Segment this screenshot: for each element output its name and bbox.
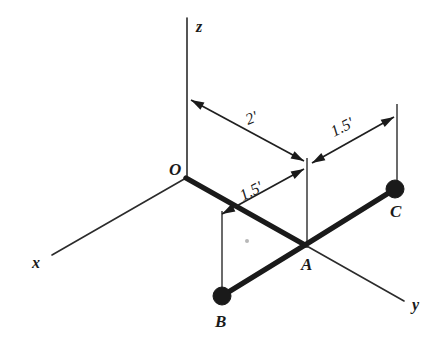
engineering-diagram: z x y O A B C 2' 1.5' 1.5'	[0, 0, 441, 341]
node-label-a: A	[300, 255, 312, 274]
dimension-1p5ft-lower-left-arrow-end	[291, 169, 304, 179]
dimension-2ft-arrow-start	[191, 100, 204, 110]
scan-speck	[245, 239, 249, 243]
dimension-2ft-arrow-end	[291, 151, 304, 161]
dimension-label-2ft: 2'	[243, 108, 260, 128]
diagram-canvas: z x y O A B C 2' 1.5' 1.5'	[0, 0, 441, 341]
dimension-label-1p5ft-upper-right: 1.5'	[328, 114, 357, 140]
axis-label-y: y	[410, 296, 420, 314]
x-axis-line	[52, 178, 186, 255]
node-label-b: B	[214, 312, 226, 331]
node-label-o: O	[169, 160, 181, 179]
node-label-c: C	[390, 202, 402, 221]
y-axis-line	[305, 245, 404, 301]
dimension-1p5ft-upper-right-arrow-start	[312, 153, 325, 163]
axis-label-z: z	[195, 18, 203, 35]
node-dot-c	[386, 180, 404, 198]
dimension-label-1p5ft-lower-left: 1.5'	[237, 178, 266, 204]
dimension-1p5ft-upper-right-arrow-end	[381, 117, 394, 127]
axis-labels-group: z x y	[31, 18, 420, 314]
axes-group	[52, 18, 404, 301]
member-ac	[305, 189, 395, 245]
node-dot-b	[213, 287, 231, 305]
axis-label-x: x	[31, 254, 40, 271]
